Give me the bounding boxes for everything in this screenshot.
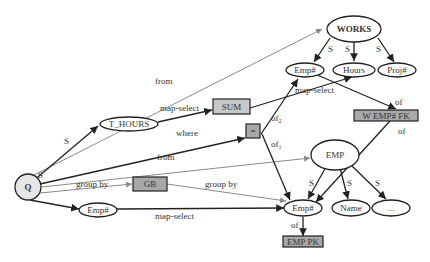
svg-text:GB: GB: [144, 179, 157, 189]
svg-text:map-select: map-select: [160, 103, 199, 113]
node-works: WORKS: [327, 16, 381, 42]
svg-text:WORKS: WORKS: [337, 24, 372, 34]
svg-text:group by: group by: [205, 179, 238, 189]
svg-text:Name: Name: [340, 203, 362, 213]
edge-s-emp-name: S: [340, 168, 352, 199]
svg-text:Proj#: Proj#: [387, 65, 407, 75]
edge-s-works-proj: S: [376, 38, 394, 62]
svg-text:Emp#: Emp#: [87, 205, 109, 215]
node-gb: GB: [133, 177, 167, 191]
svg-text:S: S: [328, 44, 333, 54]
svg-text:S: S: [345, 44, 350, 54]
svg-text:S: S: [376, 44, 381, 54]
edge-s-works-hours: S: [345, 41, 354, 61]
edge-s-works-emp: S: [314, 38, 333, 62]
svg-text:map-select: map-select: [295, 85, 334, 95]
svg-text:S: S: [309, 178, 314, 188]
svg-text:of: of: [395, 97, 403, 107]
svg-text:SUM: SUM: [222, 102, 242, 112]
edge-map-select-sum: map-select: [158, 103, 212, 122]
node-emp-pk: EMP PK: [283, 236, 323, 247]
edge-of2: of₂: [261, 79, 298, 134]
node-emp-name: Name: [332, 200, 370, 216]
node-q-emp: Emp#: [79, 203, 117, 217]
svg-text:Emp#: Emp#: [292, 203, 314, 213]
svg-text:of₁: of₁: [271, 139, 282, 149]
node-works-proj: Proj#: [378, 63, 416, 77]
svg-text:of₂: of₂: [271, 113, 282, 123]
svg-text:...: ...: [388, 203, 395, 213]
edge-map-select-emp: map-select: [117, 208, 284, 221]
edge-s-emp-more: S: [352, 166, 386, 199]
node-works-emp: Emp#: [286, 63, 324, 77]
svg-text:where: where: [176, 128, 198, 138]
svg-text:Q: Q: [24, 182, 31, 192]
svg-text:from: from: [157, 152, 175, 162]
node-w-emp-fk: W EMP# FK: [354, 110, 418, 121]
edge-of-pk: of: [291, 217, 303, 236]
svg-text:of: of: [398, 126, 406, 136]
svg-text:EMP PK: EMP PK: [287, 237, 319, 247]
svg-text:=: =: [250, 126, 255, 136]
svg-text:W EMP# FK: W EMP# FK: [362, 111, 410, 121]
svg-text:from: from: [155, 76, 173, 86]
svg-text:S: S: [375, 178, 380, 188]
svg-text:T_HOURS: T_HOURS: [109, 119, 150, 129]
svg-text:S: S: [38, 170, 43, 180]
node-emp-emp: Emp#: [284, 200, 322, 216]
node-q: Q: [15, 174, 41, 200]
node-emp: EMP: [311, 140, 359, 170]
svg-text:EMP: EMP: [326, 150, 345, 160]
node-sum: SUM: [213, 99, 250, 114]
svg-text:Hours: Hours: [343, 65, 365, 75]
svg-text:S: S: [347, 178, 352, 188]
svg-text:map-select: map-select: [155, 211, 194, 221]
svg-text:group by: group by: [76, 179, 109, 189]
svg-text:of: of: [291, 220, 299, 230]
edge-of1: of₁: [262, 134, 290, 200]
query-graph-diagram: from S map-select where from group by gr…: [0, 0, 430, 262]
svg-text:S: S: [64, 136, 69, 146]
edge-map-select-hours: map-select: [250, 77, 352, 108]
node-works-hours: Hours: [333, 63, 375, 77]
edge-group-by-gb: group by: [167, 179, 286, 201]
node-emp-more: ...: [372, 200, 410, 216]
node-t-hours: T_HOURS: [100, 117, 158, 131]
node-equals: =: [246, 124, 260, 138]
svg-text:Emp#: Emp#: [294, 65, 316, 75]
